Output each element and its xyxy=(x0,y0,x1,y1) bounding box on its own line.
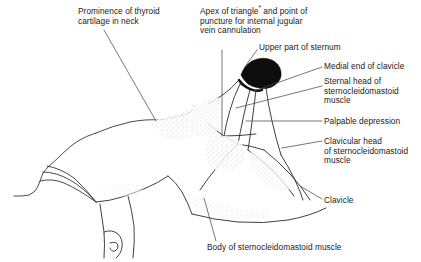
stipple-shading xyxy=(96,94,290,220)
anatomical-figure: Prominence of thyroid cartilage in neck … xyxy=(0,0,421,262)
label-upper-part-of-sternum: Upper part of sternum xyxy=(259,43,341,53)
label-body-of-scm: Body of sternocleidomastoid muscle xyxy=(207,243,342,253)
label-apex-text-1: Apex of triangle xyxy=(200,6,258,16)
leader-clavicular-head xyxy=(282,141,322,148)
sternum-dark-mass xyxy=(239,58,281,91)
label-medial-end-of-clavicle: Medial end of clavicle xyxy=(324,62,404,72)
label-sternal-head: Sternal head of sternocleidomastoid musc… xyxy=(324,77,399,106)
label-apex-of-triangle: Apex of triangle* and point of puncture … xyxy=(200,7,307,36)
anatomy-illustration xyxy=(0,0,421,262)
label-clavicle: Clavicle xyxy=(324,196,353,206)
leader-clavicle xyxy=(300,186,322,199)
leader-thyroid xyxy=(104,30,156,121)
label-palpable-depression: Palpable depression xyxy=(324,117,400,127)
label-clavicular-head: Clavicular head of sternocleidomastoid m… xyxy=(324,137,408,166)
label-thyroid-prominence: Prominence of thyroid cartilage in neck xyxy=(78,7,160,26)
